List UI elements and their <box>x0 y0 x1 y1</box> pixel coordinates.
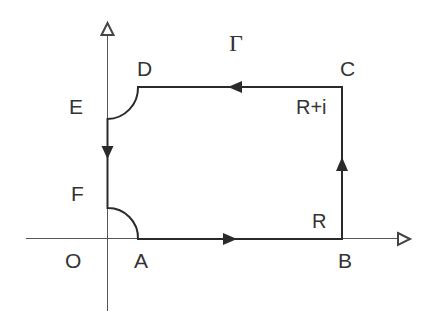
point-label-b: B <box>338 249 352 272</box>
b-value-label: R <box>312 210 326 232</box>
arrow-left-icon <box>228 81 242 93</box>
arrow-right-icon <box>223 233 237 245</box>
point-label-d: D <box>137 57 152 80</box>
arrow-down-icon <box>102 146 114 159</box>
point-label-f: F <box>71 182 84 205</box>
x-axis-arrow-icon <box>398 233 410 245</box>
c-value-label: R+i <box>296 96 327 118</box>
origin-label: O <box>65 249 81 272</box>
y-axis-arrow-icon <box>102 23 114 35</box>
arrow-up-icon <box>336 157 348 171</box>
point-label-e: E <box>69 95 83 118</box>
point-label-c: C <box>340 57 355 80</box>
gamma-label: Γ <box>229 30 243 56</box>
point-label-a: A <box>134 249 148 272</box>
contour-diagram: Γ D C R+i E F R O A B <box>0 0 435 325</box>
